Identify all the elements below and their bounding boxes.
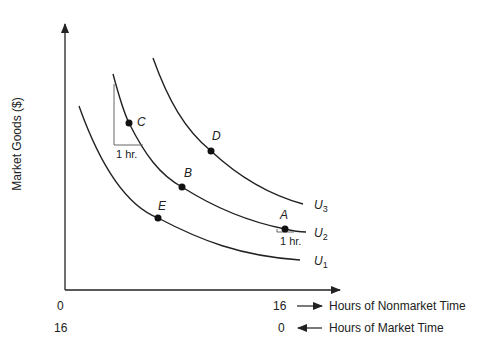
point-d bbox=[208, 148, 215, 155]
market-end-label: 0 bbox=[278, 321, 285, 335]
curve-label-u1: U1 bbox=[314, 254, 328, 270]
market-start-label: 16 bbox=[54, 321, 67, 335]
point-label-b: B bbox=[184, 166, 192, 180]
point-label-a: A bbox=[280, 208, 288, 222]
point-b bbox=[179, 184, 186, 191]
nonmarket-start-label: 0 bbox=[57, 299, 64, 313]
slope-label-c: 1 hr. bbox=[116, 148, 137, 160]
market-axis-label: Hours of Market Time bbox=[329, 321, 444, 335]
point-e bbox=[155, 215, 162, 222]
point-label-c: C bbox=[137, 115, 146, 129]
point-a bbox=[282, 226, 289, 233]
point-label-e: E bbox=[158, 199, 166, 213]
point-label-d: D bbox=[212, 129, 221, 143]
indifference-curve-u3 bbox=[153, 58, 303, 204]
point-c bbox=[126, 120, 133, 127]
y-axis-label: Market Goods ($) bbox=[10, 89, 24, 199]
nonmarket-axis-label: Hours of Nonmarket Time bbox=[329, 299, 466, 313]
slope-label-a: 1 hr. bbox=[280, 235, 301, 247]
curve-label-u2: U2 bbox=[314, 226, 328, 242]
nonmarket-end-label: 16 bbox=[273, 299, 286, 313]
curve-label-u3: U3 bbox=[314, 198, 328, 214]
